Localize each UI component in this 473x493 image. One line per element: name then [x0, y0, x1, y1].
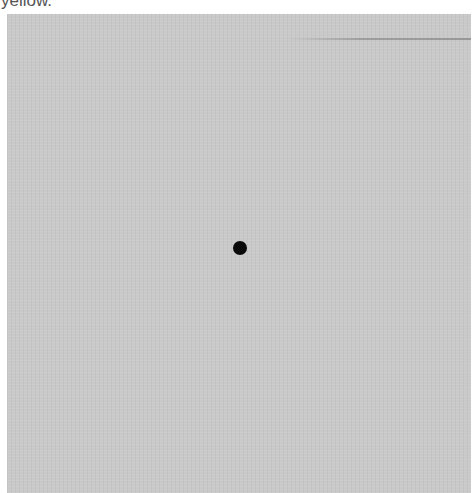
black-dot	[233, 241, 247, 255]
caption-text: yellow.	[1, 0, 52, 11]
horizontal-streak	[287, 38, 471, 40]
gray-panel	[7, 14, 471, 493]
